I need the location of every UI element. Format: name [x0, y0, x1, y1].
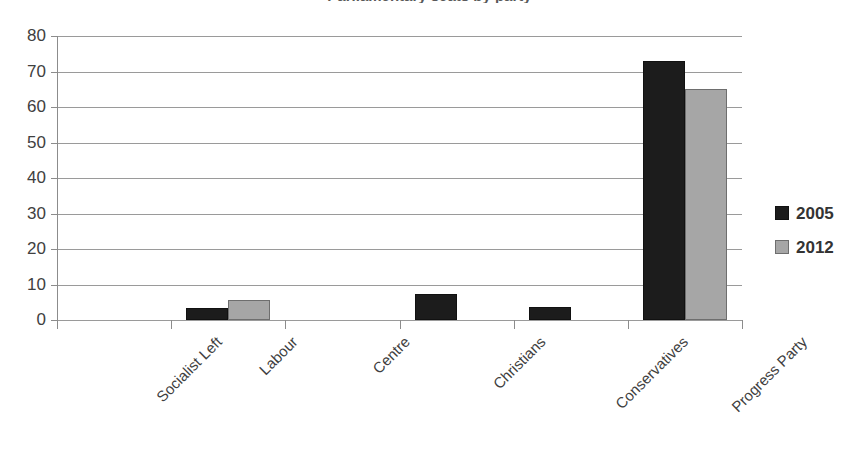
legend-swatch-icon: [775, 240, 789, 254]
bar-chart: Parliamentary seats by party 01020304050…: [0, 0, 859, 459]
bar: [685, 89, 727, 320]
y-axis-tick-label: 40: [0, 169, 46, 186]
x-axis-category-label: Centre: [369, 333, 413, 377]
bar-group: [285, 36, 399, 320]
y-axis-tick-label: 0: [0, 311, 46, 328]
bar-group: [514, 36, 628, 320]
x-axis-tick: [285, 320, 286, 329]
bar: [228, 300, 270, 320]
x-axis-category-label: Labour: [256, 333, 301, 378]
chart-title-cropped: Parliamentary seats by party: [0, 0, 859, 3]
bar: [529, 307, 571, 320]
plot-area: [57, 36, 742, 320]
x-axis-tick: [57, 320, 58, 329]
bar: [643, 61, 685, 320]
y-axis-tick-label: 60: [0, 98, 46, 115]
y-axis-tick-label: 80: [0, 27, 46, 44]
legend-label: 2005: [796, 205, 834, 222]
chart-legend: 20052012: [775, 196, 834, 264]
x-axis-category-label: Conservatives: [612, 333, 691, 412]
x-axis-tick: [400, 320, 401, 329]
bar-group: [171, 36, 285, 320]
legend-item[interactable]: 2012: [775, 230, 834, 264]
y-axis-tick-label: 20: [0, 240, 46, 257]
bar-group: [57, 36, 171, 320]
x-axis-tick: [742, 320, 743, 329]
y-axis-tick-label: 50: [0, 134, 46, 151]
legend-label: 2012: [796, 239, 834, 256]
y-axis-tick-label: 70: [0, 63, 46, 80]
bar: [415, 294, 457, 320]
x-axis-category-label: Socialist Left: [153, 333, 225, 405]
y-axis-tick-label: 10: [0, 276, 46, 293]
bar-group: [400, 36, 514, 320]
y-axis-tick-label: 30: [0, 205, 46, 222]
legend-swatch-icon: [775, 206, 789, 220]
bar-group: [628, 36, 742, 320]
x-axis-tick: [514, 320, 515, 329]
legend-item[interactable]: 2005: [775, 196, 834, 230]
bar: [186, 308, 228, 320]
x-axis-category-label: Progress Party: [728, 333, 810, 415]
x-axis-category-label: Christians: [490, 333, 549, 392]
x-axis-tick: [628, 320, 629, 329]
x-axis-tick: [171, 320, 172, 329]
